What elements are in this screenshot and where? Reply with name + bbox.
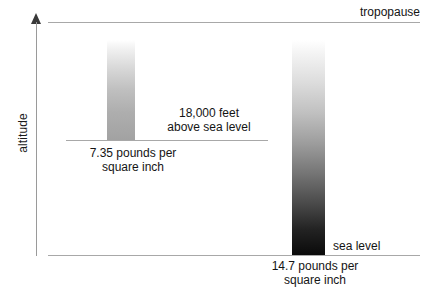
pressure-value-18000ft-line2: square inch [63,160,203,174]
altitude-axis-line [36,22,37,256]
pressure-column-sea-level [292,40,325,255]
sea-level-label-text: sea level [333,239,423,253]
pressure-value-18000ft-line1: 7.35 pounds per [63,146,203,160]
pressure-column-18000ft [107,40,135,140]
sea-level-line [48,255,420,256]
pressure-altitude-diagram: altitude tropopause 18,000 feet above se… [0,0,429,287]
altitude-axis-label: altitude [16,93,30,173]
tropopause-label-text: tropopause [300,5,420,19]
eighteen-thousand-feet-label-line1: 18,000 feet [148,106,270,120]
pressure-value-18000ft: 7.35 pounds per square inch [63,146,203,174]
sea-level-label: sea level [333,239,423,253]
pressure-value-sea-level-line1: 14.7 pounds per [245,259,385,273]
pressure-value-sea-level: 14.7 pounds per square inch [245,259,385,287]
eighteen-thousand-feet-label: 18,000 feet above sea level [148,106,270,134]
pressure-value-sea-level-line2: square inch [245,273,385,287]
tropopause-label: tropopause [300,5,420,19]
tropopause-line [48,22,420,23]
eighteen-thousand-feet-label-line2: above sea level [148,120,270,134]
eighteen-thousand-feet-line [66,140,268,141]
